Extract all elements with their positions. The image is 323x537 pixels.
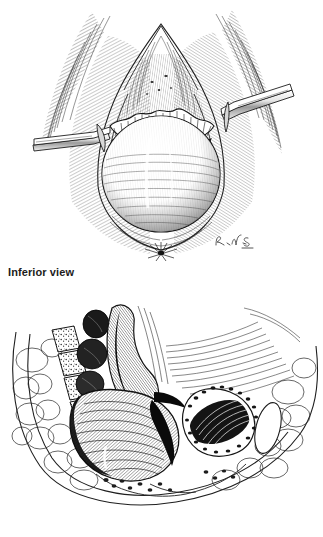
- signature-mark: [212, 231, 256, 251]
- figure-panel-inferior: Inferior view: [0, 0, 323, 285]
- side-view-artwork: [0, 288, 323, 506]
- figure-panel-side: Side view: [0, 288, 323, 537]
- illustration-side-view: [0, 288, 323, 506]
- figure-page: Inferior view: [0, 0, 323, 537]
- inferior-view-artwork: [0, 2, 323, 264]
- illustration-inferior-view: [0, 2, 323, 264]
- caption-inferior-view: Inferior view: [8, 266, 74, 279]
- artist-signature: [212, 231, 256, 251]
